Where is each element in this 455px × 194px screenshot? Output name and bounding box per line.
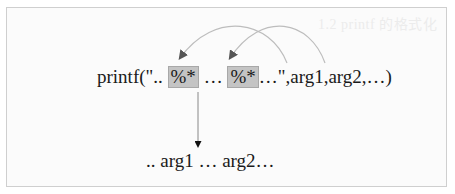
printf-call: printf(".. %* … %*…",arg1,arg2,…)	[97, 66, 392, 88]
arc-arg1-to-spec1	[180, 26, 287, 63]
format-spec-2: %*	[227, 66, 258, 88]
code-middle: …	[204, 66, 223, 87]
code-suffix: …",arg1,arg2,…)	[259, 66, 392, 87]
output-result: .. arg1 … arg2…	[146, 150, 275, 172]
arc-arg2-to-spec2	[230, 26, 325, 63]
code-prefix: printf("..	[97, 66, 163, 87]
format-spec-1: %*	[168, 66, 199, 88]
